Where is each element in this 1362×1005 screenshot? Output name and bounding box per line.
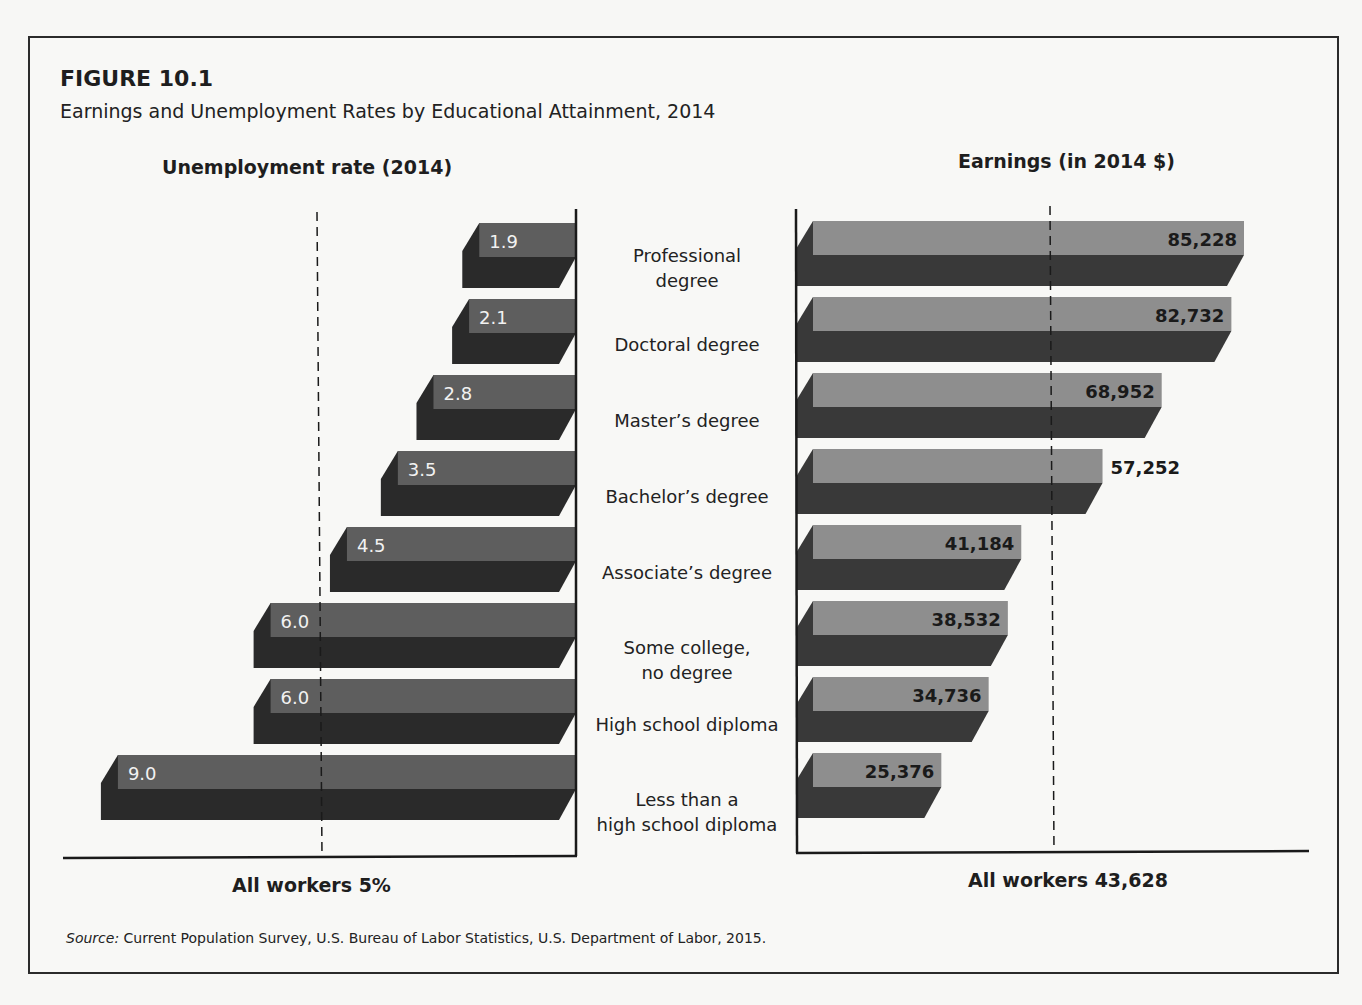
- unemployment-baseline: [63, 856, 577, 858]
- category-label-line: high school diploma: [582, 812, 792, 837]
- bar-value-label: 41,184: [945, 533, 1014, 554]
- earnings-bar: 41,184: [796, 525, 1021, 590]
- category-label-line: Professional: [582, 243, 792, 268]
- bar-value-label: 57,252: [1111, 457, 1180, 478]
- category-label-line: degree: [582, 268, 792, 293]
- unemployment-bar: 9.0: [101, 755, 576, 820]
- bar-value-label: 1.9: [489, 231, 518, 252]
- bar-value-label: 68,952: [1085, 381, 1154, 402]
- category-label-line: no degree: [582, 660, 792, 685]
- bar-top-face: [271, 603, 576, 637]
- category-label-line: Less than a: [582, 787, 792, 812]
- source-label: Source:: [66, 930, 119, 946]
- category-label-line: Master’s degree: [582, 408, 792, 433]
- earnings-bar: 38,532: [796, 601, 1008, 666]
- bar-value-label: 34,736: [912, 685, 981, 706]
- bar-value-label: 2.8: [443, 383, 472, 404]
- bar-value-label: 4.5: [357, 535, 386, 556]
- bar-value-label: 85,228: [1168, 229, 1237, 250]
- category-label: High school diploma: [582, 712, 792, 737]
- unemployment-bar: 1.9: [462, 223, 576, 288]
- unemployment-bar: 4.5: [330, 527, 576, 592]
- unemployment-bar: 2.8: [416, 375, 576, 440]
- earnings-reference-label: All workers 43,628: [968, 869, 1168, 891]
- category-label: Associate’s degree: [582, 560, 792, 585]
- unemployment-bar: 6.0: [254, 603, 576, 668]
- earnings-vertical-axis: [796, 209, 797, 853]
- unemployment-reference-label: All workers 5%: [232, 874, 391, 896]
- category-label: Master’s degree: [582, 408, 792, 433]
- unemployment-bars: 1.92.12.83.54.56.06.09.0: [101, 223, 576, 820]
- bar-value-label: 3.5: [408, 459, 437, 480]
- category-label: Some college,no degree: [582, 635, 792, 685]
- earnings-bar: 25,376: [796, 753, 941, 818]
- category-label-line: Bachelor’s degree: [582, 484, 792, 509]
- earnings-bar: 34,736: [796, 677, 989, 742]
- unemployment-bar: 3.5: [381, 451, 576, 516]
- earnings-bar: 85,228: [796, 221, 1244, 286]
- unemployment-bar: 6.0: [254, 679, 576, 744]
- earnings-bar: 68,952: [796, 373, 1162, 438]
- bar-top-face: [271, 679, 576, 713]
- category-label-line: Doctoral degree: [582, 332, 792, 357]
- bar-top-face: [813, 449, 1103, 483]
- category-label-line: High school diploma: [582, 712, 792, 737]
- unemployment-bar: 2.1: [452, 299, 576, 364]
- category-label: Bachelor’s degree: [582, 484, 792, 509]
- category-label-line: Associate’s degree: [582, 560, 792, 585]
- category-label: Professionaldegree: [582, 243, 792, 293]
- category-label: Doctoral degree: [582, 332, 792, 357]
- category-label: Less than ahigh school diploma: [582, 787, 792, 837]
- earnings-bars: 85,22882,73268,95257,25241,18438,53234,7…: [796, 221, 1244, 818]
- bar-value-label: 2.1: [479, 307, 508, 328]
- source-note: Source: Current Population Survey, U.S. …: [66, 930, 766, 946]
- category-label-line: Some college,: [582, 635, 792, 660]
- bar-top-face: [118, 755, 576, 789]
- bar-value-label: 82,732: [1155, 305, 1224, 326]
- bar-value-label: 9.0: [128, 763, 157, 784]
- bar-value-label: 6.0: [281, 611, 310, 632]
- earnings-bar: 82,732: [796, 297, 1231, 362]
- bar-value-label: 6.0: [281, 687, 310, 708]
- source-text: Current Population Survey, U.S. Bureau o…: [119, 930, 766, 946]
- bar-value-label: 38,532: [931, 609, 1000, 630]
- earnings-baseline: [796, 851, 1309, 853]
- earnings-bar: 57,252: [796, 449, 1180, 514]
- bar-value-label: 25,376: [865, 761, 934, 782]
